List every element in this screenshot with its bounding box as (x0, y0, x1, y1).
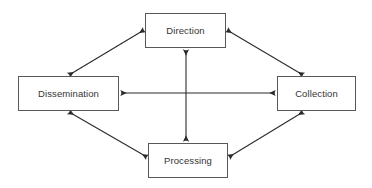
node-direction-label: Direction (166, 26, 204, 36)
node-collection: Collection (277, 76, 356, 111)
node-collection-label: Collection (295, 89, 338, 99)
edge-processing-dissemination (69, 112, 147, 157)
node-dissemination: Dissemination (18, 76, 119, 111)
node-dissemination-label: Dissemination (38, 89, 99, 99)
edge-dissemination-direction (69, 30, 144, 75)
node-processing: Processing (148, 143, 228, 178)
node-processing-label: Processing (164, 156, 212, 166)
node-direction: Direction (145, 13, 226, 48)
edge-direction-collection (227, 30, 303, 75)
intelligence-cycle-diagram: Direction Collection Processing Dissemin… (0, 0, 372, 188)
edge-collection-processing (229, 112, 303, 157)
